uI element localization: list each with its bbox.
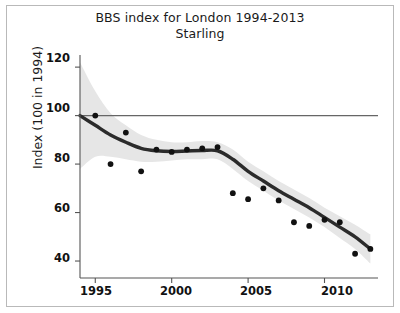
data-point <box>184 147 190 153</box>
data-point <box>92 113 98 119</box>
confidence-band <box>80 62 370 263</box>
data-point <box>169 149 175 155</box>
data-point <box>276 198 282 204</box>
data-point <box>352 251 358 257</box>
data-point <box>138 168 144 174</box>
chart-figure: BBS index for London 1994-2013 Starling … <box>0 0 400 313</box>
y-axis-ticks <box>75 67 80 261</box>
data-point <box>230 190 236 196</box>
data-point <box>245 196 251 202</box>
data-point <box>291 219 297 225</box>
data-point <box>322 217 328 223</box>
data-point <box>123 130 129 136</box>
data-point <box>215 144 221 150</box>
data-point <box>199 145 205 151</box>
axis-spines-group <box>75 55 378 283</box>
confidence-band-group <box>80 62 370 263</box>
x-axis-ticks <box>95 278 324 283</box>
data-point <box>154 147 160 153</box>
data-point <box>367 246 373 252</box>
data-point <box>108 161 114 167</box>
data-point <box>260 185 266 191</box>
plot-area <box>0 0 400 313</box>
data-point <box>306 223 312 229</box>
data-point <box>337 219 343 225</box>
